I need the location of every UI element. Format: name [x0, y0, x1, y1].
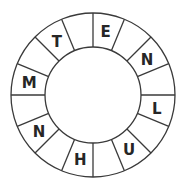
inner-ring — [45, 47, 141, 143]
segment-divider — [62, 139, 75, 170]
letter-wheel-puzzle: ENLUHNMT — [0, 0, 184, 186]
segment-divider — [62, 19, 75, 50]
segment-letter: M — [22, 74, 37, 92]
segment-letter: N — [33, 123, 46, 141]
segment-letter: T — [52, 33, 63, 51]
segment-dividers — [11, 13, 175, 177]
segment-letter: L — [152, 100, 162, 118]
segment-divider — [111, 19, 124, 50]
segment-letter: H — [74, 151, 87, 169]
segment-letter: N — [141, 51, 154, 69]
segment-letter: U — [123, 141, 135, 159]
segment-letter: E — [101, 23, 111, 41]
